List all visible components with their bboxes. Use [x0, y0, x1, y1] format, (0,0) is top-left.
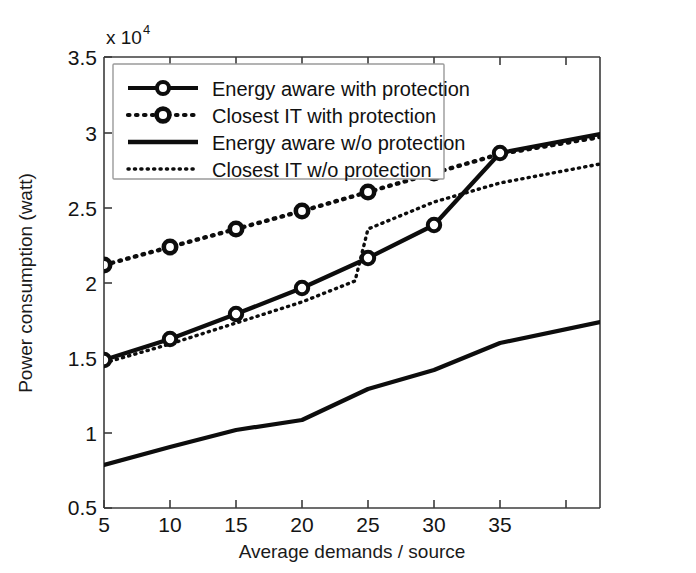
x-tick-label: 25 [356, 513, 379, 536]
y-axis-multiplier-base: x 10 [106, 27, 142, 48]
x-tick-label: 35 [488, 513, 511, 536]
y-axis-title: Power consumption (watt) [15, 173, 36, 393]
y-tick-label: 2.5 [68, 197, 97, 220]
y-tick-label: 1 [85, 422, 97, 445]
y-tick-label: 0.5 [68, 496, 97, 519]
legend-label: Closest IT with protection [212, 105, 436, 127]
circle-marker-icon [157, 109, 170, 122]
legend-label: Closest IT w/o protection [212, 159, 432, 181]
x-axis-title: Average demands / source [239, 541, 466, 562]
x-tick-label: 30 [422, 513, 445, 536]
y-tick-label: 2 [85, 272, 97, 295]
x-tick-label: 5 [98, 513, 110, 536]
y-tick-label: 1.5 [68, 347, 97, 370]
y-tick-label: 3 [85, 122, 97, 145]
y-tick-label: 3.5 [68, 46, 97, 69]
y-axis-multiplier-exponent: 4 [143, 22, 150, 37]
x-tick-label: 10 [158, 513, 181, 536]
chart-legend[interactable]: Energy aware with protection Closest IT … [113, 64, 470, 181]
power-consumption-line-chart: 0.5 1 1.5 2 2.5 3 3.5 5 10 15 20 25 30 3… [0, 0, 696, 573]
x-tick-label: 15 [224, 513, 247, 536]
legend-label: Energy aware with protection [212, 78, 470, 100]
circle-marker-icon [157, 82, 169, 94]
x-tick-label: 20 [290, 513, 313, 536]
legend-label: Energy aware w/o protection [212, 132, 465, 154]
